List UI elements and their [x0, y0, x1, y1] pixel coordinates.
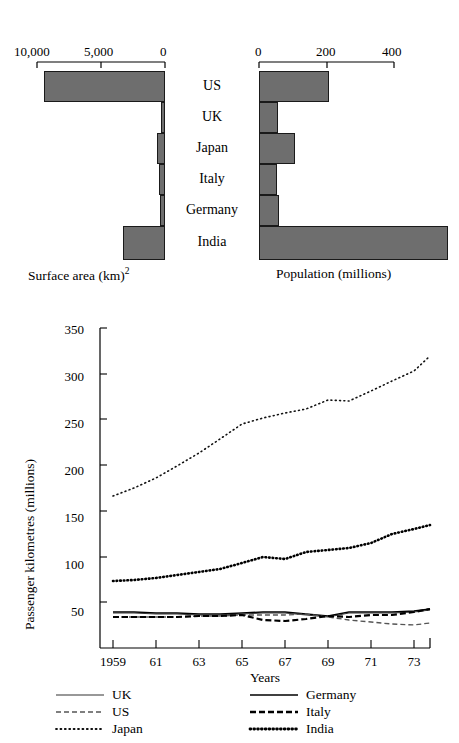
bar-left-india	[123, 226, 165, 260]
legend-label-india: India	[306, 721, 334, 737]
x-tick-67: 67	[270, 654, 300, 670]
bar-right-uk	[259, 102, 278, 133]
series-line-japan	[113, 356, 430, 496]
right-chart-caption: Population (millions)	[276, 266, 391, 282]
bar-right-germany	[259, 195, 279, 226]
x-tick-63: 63	[184, 654, 214, 670]
legend-label-italy: Italy	[306, 704, 331, 720]
line-chart: Passenger kilometres (millions) 350 300 …	[0, 290, 459, 743]
legend-swatches	[0, 686, 459, 743]
x-tick-73: 73	[399, 654, 429, 670]
left-chart-caption: Surface area (km)2	[28, 266, 129, 284]
bar-left-uk	[161, 102, 165, 133]
pyramid-category-india: India	[170, 234, 254, 250]
pyramid-bar-chart: 10,000 5,000 0 0 200 400	[0, 0, 459, 290]
pyramid-category-japan: Japan	[170, 140, 254, 156]
x-tick-71: 71	[356, 654, 386, 670]
bar-left-germany	[160, 195, 165, 226]
bar-right-japan	[259, 133, 295, 164]
bar-left-italy	[159, 164, 165, 195]
left-chart-caption-exponent: 2	[125, 266, 130, 276]
legend-label-japan: Japan	[112, 721, 143, 737]
x-tick-69: 69	[313, 654, 343, 670]
pyramid-category-uk: UK	[170, 109, 254, 125]
x-tick-65: 65	[227, 654, 257, 670]
x-tick-1959: 1959	[91, 654, 135, 670]
line-chart-plot	[0, 290, 459, 690]
series-line-italy	[113, 609, 430, 621]
pyramid-axis-rules	[0, 0, 459, 80]
series-line-india	[113, 525, 430, 581]
bar-right-us	[259, 71, 329, 102]
legend-label-germany: Germany	[306, 687, 356, 703]
left-chart-caption-text: Surface area (km)	[28, 268, 125, 283]
legend-label-us: US	[112, 704, 129, 720]
bar-left-japan	[157, 133, 165, 164]
pyramid-category-us: US	[170, 78, 254, 94]
bar-right-india	[259, 226, 448, 260]
figure-root: 10,000 5,000 0 0 200 400	[0, 0, 459, 743]
bar-right-italy	[259, 164, 277, 195]
legend-label-uk: UK	[112, 687, 132, 703]
pyramid-category-germany: Germany	[170, 202, 254, 218]
bar-left-us	[44, 71, 165, 102]
x-tick-61: 61	[141, 654, 171, 670]
pyramid-category-italy: Italy	[170, 171, 254, 187]
x-axis-title: Years	[215, 670, 315, 686]
chart-legend: UK US Japan Germany Italy India	[0, 686, 459, 743]
